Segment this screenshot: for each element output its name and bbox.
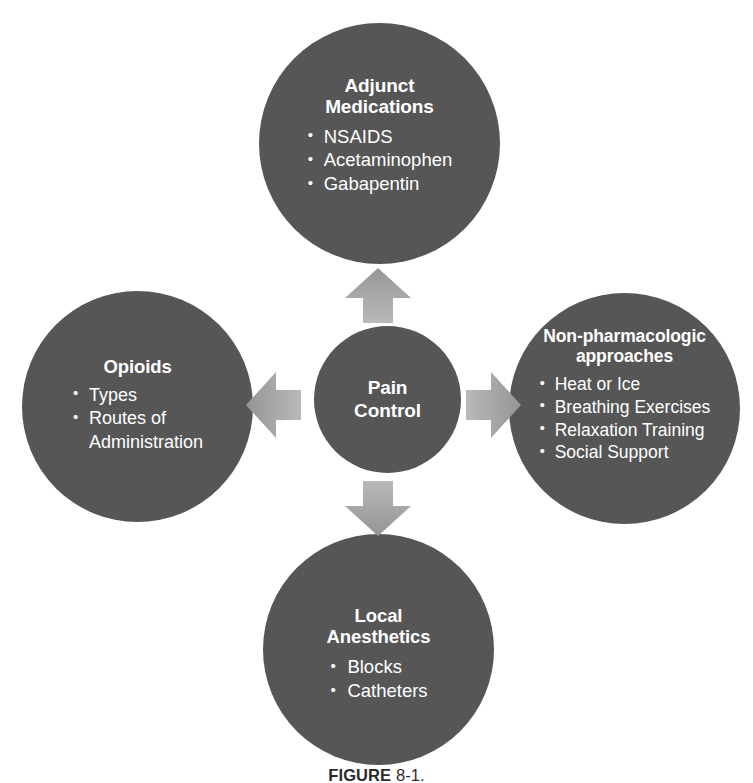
- node-pain-control-center[interactable]: Pain Control: [314, 326, 461, 473]
- list-item: Acetaminophen: [307, 148, 453, 172]
- list-item: Types: [72, 384, 203, 407]
- list-item: Routes of Administration: [72, 407, 203, 454]
- arrow-right-icon: [466, 372, 521, 438]
- node-local-anesthetics[interactable]: Local Anesthetics Blocks Catheters: [263, 534, 494, 765]
- node-nonpharm-list: Heat or Ice Breathing Exercises Relaxati…: [539, 373, 711, 464]
- figure-caption-label: FIGURE: [328, 766, 391, 783]
- list-item: Relaxation Training: [539, 419, 711, 442]
- node-non-pharmacologic-approaches[interactable]: Non-pharmacologic approaches Heat or Ice…: [509, 293, 740, 524]
- arrow-down-icon: [345, 481, 411, 536]
- node-adjunct-medications[interactable]: Adjunct Medications NSAIDS Acetaminophen…: [259, 23, 500, 264]
- list-item: Gabapentin: [307, 172, 453, 196]
- list-item: NSAIDS: [307, 125, 453, 149]
- arrow-up-icon: [345, 268, 411, 323]
- list-item: Breathing Exercises: [539, 396, 711, 419]
- node-opioids[interactable]: Opioids Types Routes of Administration: [22, 291, 253, 522]
- node-opioids-list: Types Routes of Administration: [72, 384, 203, 454]
- node-center-title: Pain Control: [354, 377, 421, 423]
- node-nonpharm-title: Non-pharmacologic approaches: [543, 327, 706, 366]
- list-item: Catheters: [329, 679, 427, 703]
- list-item: Heat or Ice: [539, 373, 711, 396]
- pain-control-figure: Adjunct Medications NSAIDS Acetaminophen…: [0, 0, 753, 783]
- figure-caption: FIGURE 8-1.: [0, 766, 753, 783]
- arrow-left-icon: [246, 372, 301, 438]
- list-item: Blocks: [329, 655, 427, 679]
- node-adjunct-list: NSAIDS Acetaminophen Gabapentin: [307, 125, 453, 197]
- node-local-list: Blocks Catheters: [329, 655, 427, 703]
- figure-caption-rest: 8-1.: [391, 766, 425, 783]
- node-local-title: Local Anesthetics: [327, 606, 431, 647]
- node-opioids-title: Opioids: [103, 357, 171, 378]
- node-adjunct-title: Adjunct Medications: [325, 75, 434, 118]
- list-item: Social Support: [539, 441, 711, 464]
